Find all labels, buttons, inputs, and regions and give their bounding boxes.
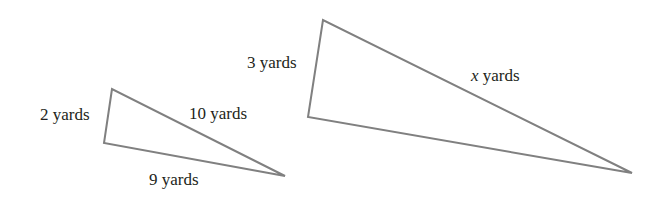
large-triangle <box>308 20 632 173</box>
small-triangle <box>104 89 285 176</box>
small-left-side-label: 2 yards <box>40 106 90 123</box>
triangles-canvas <box>0 0 668 204</box>
similar-triangles-diagram: 2 yards 10 yards 9 yards 3 yards x yards <box>0 0 668 204</box>
small-bottom-side-label: 9 yards <box>149 171 199 188</box>
small-hypotenuse-label: 10 yards <box>189 105 247 122</box>
variable-x: x <box>471 66 479 85</box>
large-hypotenuse-label: x yards <box>471 67 520 84</box>
unit-yards: yards <box>479 66 520 85</box>
large-left-side-label: 3 yards <box>247 54 297 71</box>
